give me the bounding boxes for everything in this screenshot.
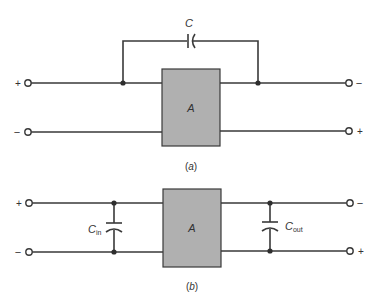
sign-label: −	[14, 126, 20, 138]
amplifier-label-b: A	[187, 222, 195, 234]
output-terminal-plus-a	[346, 128, 352, 134]
sign-label: +	[357, 126, 363, 137]
caption-a: (a)	[185, 161, 197, 172]
junction-dot	[120, 80, 125, 85]
input-terminal-minus-b	[26, 249, 32, 255]
junction-dot	[267, 248, 272, 253]
junction-dot	[111, 200, 116, 205]
caption-b: (b)	[186, 281, 198, 292]
sign-label: +	[358, 246, 364, 257]
output-terminal-minus-b	[347, 200, 353, 206]
junction-dot	[255, 80, 260, 85]
cout-label: Cout	[285, 220, 303, 233]
amplifier-label-a: A	[186, 102, 194, 114]
input-terminal-plus-b	[26, 200, 32, 206]
output-terminal-plus-b	[347, 248, 353, 254]
figure-b: Cin Cout A + − − + (b)	[15, 189, 364, 292]
input-terminal-minus-a	[25, 129, 31, 135]
figure-a: C A + − − + (a)	[14, 17, 363, 172]
capacitor-c-label: C	[185, 17, 193, 29]
sign-label: −	[15, 246, 21, 258]
sign-label: +	[15, 78, 21, 89]
output-terminal-minus-a	[346, 80, 352, 86]
sign-label: +	[16, 198, 22, 209]
circuit-diagram: C A + − − + (a) Cin Cout	[0, 0, 377, 308]
sign-label: −	[357, 197, 363, 209]
cin-label: Cin	[88, 223, 102, 236]
input-terminal-plus-a	[25, 80, 31, 86]
junction-dot	[267, 200, 272, 205]
junction-dot	[111, 249, 116, 254]
sign-label: −	[356, 77, 362, 89]
